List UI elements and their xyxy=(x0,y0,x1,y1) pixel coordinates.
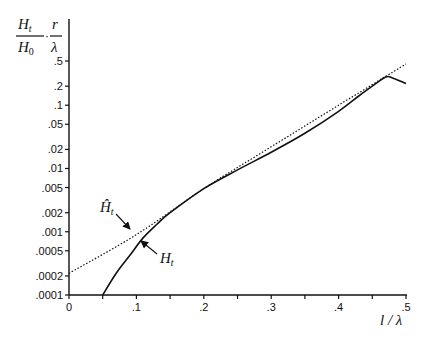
y-tick-label: .05 xyxy=(48,118,63,130)
x-tick-label: .5 xyxy=(401,301,410,313)
x-axis-label: l / λ xyxy=(380,312,403,328)
annotation-label-h-hat: Ĥt xyxy=(99,199,114,217)
arrow-icon xyxy=(116,214,130,229)
y-label-num1: Ht xyxy=(17,16,32,34)
y-label-num2: r xyxy=(52,16,58,32)
series-h-hat-t-dotted-line xyxy=(69,64,406,273)
x-tick-label: 0 xyxy=(66,301,72,313)
y-tick-label: .005 xyxy=(42,182,63,194)
y-tick-label: .002 xyxy=(42,207,63,219)
y-tick-label: .5 xyxy=(54,55,63,67)
annotation-label-h: Ht xyxy=(159,250,174,268)
y-label-den2: λ xyxy=(50,39,58,55)
x-tick-label: .4 xyxy=(334,301,343,313)
y-tick-label: .2 xyxy=(54,80,63,92)
y-tick-label: .01 xyxy=(48,162,63,174)
annotation-h-t: Ht xyxy=(141,241,174,268)
y-tick-label: .0002 xyxy=(35,270,63,282)
x-tick-label: .1 xyxy=(132,301,141,313)
y-label-den1: H0 xyxy=(17,39,34,57)
series-h-t-solid-line xyxy=(103,76,406,295)
x-tick-label: .2 xyxy=(199,301,208,313)
x-ticks: 0.1.2.3.4.5 xyxy=(66,295,411,313)
y-tick-label: .1 xyxy=(54,99,63,111)
annotation-h-hat-t: Ĥt xyxy=(99,199,130,229)
y-tick-label: .02 xyxy=(48,143,63,155)
arrow-icon xyxy=(141,241,157,254)
multiply-dot: · xyxy=(45,29,49,43)
y-tick-label: .001 xyxy=(42,226,63,238)
y-axis-label: Ht H0 · r λ xyxy=(16,16,62,57)
y-ticks: .0001.0002.0005.001.002.005.01.02.05.1.2… xyxy=(35,55,69,301)
log-linear-chart: Ht H0 · r λ .0001.0002.0005.001.002.005.… xyxy=(0,0,427,343)
y-tick-label: .0005 xyxy=(35,245,63,257)
y-tick-label: .0001 xyxy=(35,289,63,301)
x-tick-label: .3 xyxy=(267,301,276,313)
